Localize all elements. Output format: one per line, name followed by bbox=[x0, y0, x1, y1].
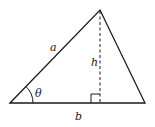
angle-theta-label: θ bbox=[35, 87, 42, 100]
triangle-diagram: a h θ b bbox=[0, 0, 155, 127]
height-label: h bbox=[91, 56, 98, 69]
triangle-outline bbox=[10, 10, 145, 103]
side-b-label: b bbox=[75, 110, 82, 123]
angle-arc bbox=[26, 87, 33, 104]
side-a-label: a bbox=[50, 41, 57, 54]
right-angle-marker bbox=[91, 94, 100, 103]
